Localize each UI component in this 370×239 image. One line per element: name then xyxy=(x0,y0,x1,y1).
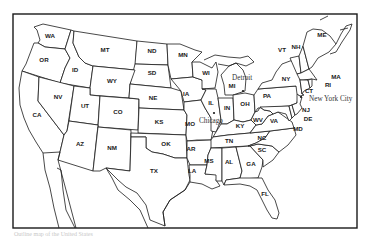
state-label-ia: IA xyxy=(183,90,190,97)
state-label-nc: NC xyxy=(258,134,267,141)
state-label-mn: MN xyxy=(178,51,188,58)
state-label-sc: SC xyxy=(258,146,267,153)
state-label-tx: TX xyxy=(150,167,159,174)
city-marker-chicago xyxy=(213,112,215,114)
state-label-nv: NV xyxy=(54,93,63,100)
state-label-ut: UT xyxy=(81,102,89,109)
state-label-de: DE xyxy=(304,115,313,122)
state-label-az: AZ xyxy=(76,140,84,147)
state-label-ri: RI xyxy=(325,81,331,88)
state-label-ct: CT xyxy=(305,87,313,94)
state-label-wv: WV xyxy=(253,116,264,123)
state-label-wi: WI xyxy=(202,69,210,76)
state-label-in: IN xyxy=(224,104,231,111)
state-label-co: CO xyxy=(113,108,122,115)
us-outline-map: WAORIDMTNDMNWYSDWIMINVUTCONEIAILINOHPANY… xyxy=(0,0,370,239)
state-label-oh: OH xyxy=(240,100,250,107)
city-label-chicago: Chicago xyxy=(199,117,223,125)
state-label-ca: CA xyxy=(33,111,42,118)
state-label-wa: WA xyxy=(45,32,55,39)
state-label-mo: MO xyxy=(185,120,195,127)
state-label-wy: WY xyxy=(107,77,118,84)
state-label-ar: AR xyxy=(187,145,196,152)
state-label-ky: KY xyxy=(236,122,245,129)
state-label-nd: ND xyxy=(148,47,157,54)
state-label-la: LA xyxy=(188,167,197,174)
state-label-vt: VT xyxy=(278,46,286,53)
state-label-me: ME xyxy=(317,31,326,38)
state-label-ms: MS xyxy=(204,157,213,164)
state-label-or: OR xyxy=(39,56,49,63)
state-label-ks: KS xyxy=(155,118,164,125)
state-label-pa: PA xyxy=(263,92,272,99)
state-label-md: MD xyxy=(293,125,303,132)
state-label-mt: MT xyxy=(101,46,110,53)
map-caption: Outline map of the United States xyxy=(14,231,93,237)
state-shape-oh xyxy=(233,93,255,122)
state-label-fl: FL xyxy=(261,190,269,197)
state-label-id: ID xyxy=(72,66,79,73)
state-label-nm: NM xyxy=(107,144,117,151)
state-label-mi: MI xyxy=(229,82,236,89)
city-label-detroit: Detroit xyxy=(232,74,252,82)
city-marker-new-york-city xyxy=(300,96,302,98)
state-label-tn: TN xyxy=(225,137,234,144)
city-marker-detroit xyxy=(242,90,244,92)
state-label-ny: NY xyxy=(282,75,291,82)
state-label-il: IL xyxy=(208,99,214,106)
state-label-sd: SD xyxy=(148,69,157,76)
state-label-ma: MA xyxy=(331,73,341,80)
state-label-ok: OK xyxy=(161,140,171,147)
state-label-ga: GA xyxy=(246,160,256,167)
state-label-va: VA xyxy=(270,117,279,124)
state-label-nh: NH xyxy=(292,43,301,50)
map-canvas: WAORIDMTNDMNWYSDWIMINVUTCONEIAILINOHPANY… xyxy=(0,0,370,239)
state-label-nj: NJ xyxy=(302,106,310,113)
state-label-al: AL xyxy=(225,158,233,165)
state-label-ne: NE xyxy=(149,94,158,101)
city-label-new-york-city: New York City xyxy=(309,95,353,103)
